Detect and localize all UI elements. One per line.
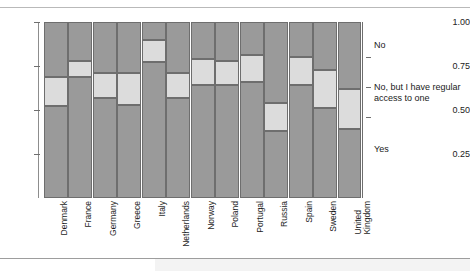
segment-regular-access[interactable] — [240, 55, 264, 81]
segment-regular-access[interactable] — [117, 73, 141, 105]
segment-regular-access[interactable] — [313, 70, 337, 109]
legend-tick-regular-access-upper — [366, 87, 371, 88]
segment-regular-access[interactable] — [338, 89, 362, 129]
segment-yes[interactable] — [142, 62, 166, 198]
segment-yes[interactable] — [166, 98, 190, 198]
segment-yes[interactable] — [117, 105, 141, 198]
x-axis-label-germany: Germany — [109, 201, 118, 236]
page-rule-top — [0, 7, 470, 8]
segment-regular-access[interactable] — [215, 61, 239, 86]
segment-yes[interactable] — [215, 85, 239, 198]
legend-tick-no — [366, 57, 371, 58]
segment-yes[interactable] — [93, 98, 117, 198]
segment-yes[interactable] — [191, 85, 215, 198]
plot-right-border — [362, 22, 363, 198]
plot-area — [44, 22, 362, 198]
bar-italy[interactable] — [142, 22, 166, 198]
bar-netherlands[interactable] — [166, 22, 190, 198]
y-tick-0.50 — [34, 110, 40, 111]
segment-regular-access[interactable] — [264, 103, 288, 131]
legend-label-yes: Yes — [374, 144, 470, 155]
legend: No No, but I have regular access to one … — [366, 22, 470, 198]
segment-no[interactable] — [44, 22, 68, 77]
segment-no[interactable] — [117, 22, 141, 73]
segment-regular-access[interactable] — [68, 61, 92, 77]
bar-spain[interactable] — [289, 22, 313, 198]
segment-no[interactable] — [240, 22, 264, 55]
bar-germany[interactable] — [93, 22, 117, 198]
bar-poland[interactable] — [215, 22, 239, 198]
bar-greece[interactable] — [117, 22, 141, 198]
legend-label-regular-access: No, but I have regular access to one — [374, 82, 470, 104]
segment-no[interactable] — [68, 22, 92, 61]
bar-russia[interactable] — [264, 22, 288, 198]
x-axis-label-portugal: Portugal — [256, 201, 265, 233]
x-axis-label-italy: Italy — [158, 201, 167, 217]
segment-no[interactable] — [264, 22, 288, 103]
y-tick-0.25 — [34, 154, 40, 155]
x-axis-label-norway: Norway — [207, 201, 216, 230]
segment-yes[interactable] — [264, 131, 288, 198]
segment-no[interactable] — [338, 22, 362, 89]
page-footer-band — [155, 259, 470, 271]
segment-regular-access[interactable] — [44, 77, 68, 107]
segment-yes[interactable] — [240, 82, 264, 198]
bar-united-kingdom[interactable] — [338, 22, 362, 198]
segment-regular-access[interactable] — [166, 73, 190, 98]
segment-no[interactable] — [142, 22, 166, 40]
bar-norway[interactable] — [191, 22, 215, 198]
segment-no[interactable] — [289, 22, 313, 57]
bar-denmark[interactable] — [44, 22, 68, 198]
segment-no[interactable] — [166, 22, 190, 73]
x-axis-label-spain: Spain — [305, 201, 314, 223]
segment-no[interactable] — [215, 22, 239, 61]
segment-regular-access[interactable] — [191, 59, 215, 85]
chart-page: 1.000.750.500.25 DenmarkFranceGermanyGre… — [0, 0, 470, 271]
legend-label-no: No — [374, 40, 470, 51]
x-axis-label-greece: Greece — [133, 201, 142, 229]
segment-no[interactable] — [191, 22, 215, 59]
segment-yes[interactable] — [44, 106, 68, 198]
x-axis-label-france: France — [84, 201, 93, 227]
segment-yes[interactable] — [313, 108, 337, 198]
legend-tick-regular-access-lower — [366, 117, 371, 118]
x-axis-label-united-kingdom: UnitedKingdom — [354, 201, 372, 235]
x-axis-label-denmark: Denmark — [60, 201, 69, 235]
bar-france[interactable] — [68, 22, 92, 198]
segment-regular-access[interactable] — [142, 40, 166, 63]
bar-sweden[interactable] — [313, 22, 337, 198]
y-tick-0.75 — [34, 66, 40, 67]
y-tick-1.00 — [34, 22, 40, 23]
segment-regular-access[interactable] — [289, 57, 313, 85]
segment-yes[interactable] — [289, 85, 313, 198]
x-axis-label-netherlands: Netherlands — [182, 201, 191, 247]
segment-yes[interactable] — [338, 129, 362, 198]
segment-no[interactable] — [93, 22, 117, 73]
x-axis-label-russia: Russia — [280, 201, 289, 227]
bar-portugal[interactable] — [240, 22, 264, 198]
x-axis-label-poland: Poland — [231, 201, 240, 227]
segment-yes[interactable] — [68, 77, 92, 198]
segment-regular-access[interactable] — [93, 73, 117, 98]
x-axis-label-sweden: Sweden — [329, 201, 338, 232]
segment-no[interactable] — [313, 22, 337, 70]
